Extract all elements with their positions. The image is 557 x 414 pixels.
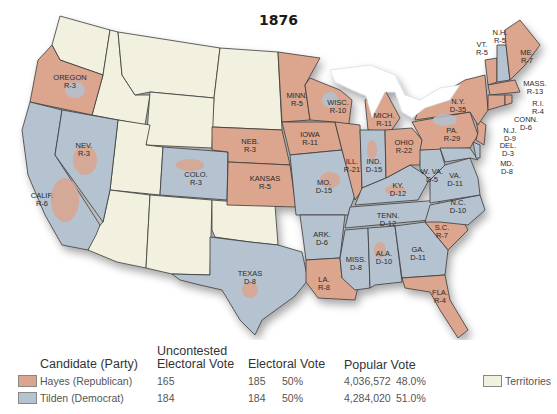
state-electoral-result: D-3 <box>502 149 514 158</box>
legend-uncontested-tilden: 184 <box>157 392 175 404</box>
legend-electoral-hayes: 185 <box>248 375 266 387</box>
legend-header-candidate: Candidate (Party) <box>40 358 138 371</box>
legend-electoral-pct-tilden: 50% <box>282 392 303 404</box>
legend-electoral-tilden: 184 <box>248 392 266 404</box>
legend-popular-pct-tilden: 51.0% <box>396 392 426 404</box>
legend-candidate-hayes: Hayes (Republican) <box>40 375 132 387</box>
state-electoral-result: D-12 <box>390 189 406 198</box>
state-electoral-result: R-22 <box>396 146 412 155</box>
legend-territories: Territories <box>505 375 551 387</box>
legend-uncontested-hayes: 165 <box>157 375 175 387</box>
territory-new-mexico <box>146 195 212 275</box>
territory-wyoming <box>146 92 214 148</box>
territory-dakota <box>212 48 282 130</box>
state-electoral-result: R-8 <box>318 283 330 292</box>
state-electoral-result: D-8 <box>501 167 513 176</box>
state-electoral-result: D-11 <box>410 253 426 262</box>
state-electoral-result: R-5 <box>494 36 506 45</box>
state-electoral-result: D-10 <box>376 257 392 266</box>
state-electoral-result: R-11 <box>302 138 318 147</box>
state-electoral-result: D-10 <box>450 206 466 215</box>
state-electoral-result: R-5 <box>476 48 488 57</box>
us-election-map: OREGONR-3CALIF.R-6NEV.R-3COLO.R-3NEB.R-3… <box>0 0 557 340</box>
legend-electoral-pct-hayes: 50% <box>282 375 303 387</box>
democrat-swatch <box>18 392 37 404</box>
state-electoral-result: R-5 <box>259 182 271 191</box>
state-electoral-result: R-13 <box>527 87 543 96</box>
territory-swatch <box>483 375 502 387</box>
state-electoral-result: R-5 <box>291 99 303 108</box>
state-electoral-result: R-11 <box>376 119 392 128</box>
state-electoral-result: R-3 <box>190 178 202 187</box>
territory-montana <box>118 32 220 98</box>
state-electoral-result: R-4 <box>434 296 446 305</box>
state-electoral-result: D-6 <box>520 123 532 132</box>
legend-popular-tilden: 4,284,020 <box>344 392 391 404</box>
state-electoral-result: R-3 <box>78 149 90 158</box>
legend-popular-hayes: 4,036,572 <box>344 375 391 387</box>
republican-swatch <box>18 375 37 387</box>
state-rhode-island <box>505 95 512 105</box>
state-electoral-result: D-11 <box>447 179 463 188</box>
state-maryland <box>440 148 478 162</box>
state-electoral-result: R-29 <box>444 134 460 143</box>
state-electoral-result: D-15 <box>316 186 332 195</box>
state-electoral-result: D-8 <box>350 263 362 272</box>
state-electoral-result: R-6 <box>36 199 48 208</box>
legend: Candidate (Party) Uncontested Electoral … <box>0 340 557 414</box>
state-electoral-result: D-15 <box>366 165 382 174</box>
state-florida <box>402 275 468 338</box>
state-electoral-result: R-7 <box>521 56 533 65</box>
state-vermont <box>485 58 497 85</box>
state-electoral-result: D-35 <box>450 105 466 114</box>
state-connecticut <box>488 95 505 110</box>
legend-header-electoral: Electoral Vote <box>248 358 325 371</box>
state-electoral-result: R-10 <box>330 106 346 115</box>
state-electoral-result: R-21 <box>344 165 360 174</box>
legend-header-popular: Popular Vote <box>344 359 416 372</box>
legend-candidate-tilden: Tilden (Democrat) <box>40 392 124 404</box>
state-electoral-result: R-3 <box>244 145 256 154</box>
legend-popular-pct-hayes: 48.0% <box>396 375 426 387</box>
state-electoral-result: D-8 <box>244 277 256 286</box>
state-electoral-result: D-12 <box>380 219 396 228</box>
legend-header-uncontested-2: Electoral Vote <box>157 358 234 371</box>
state-electoral-result: D-5 <box>426 175 438 184</box>
state-electoral-result: R-3 <box>64 81 76 90</box>
state-electoral-result: D-6 <box>316 238 328 247</box>
state-electoral-result: R-7 <box>436 231 448 240</box>
